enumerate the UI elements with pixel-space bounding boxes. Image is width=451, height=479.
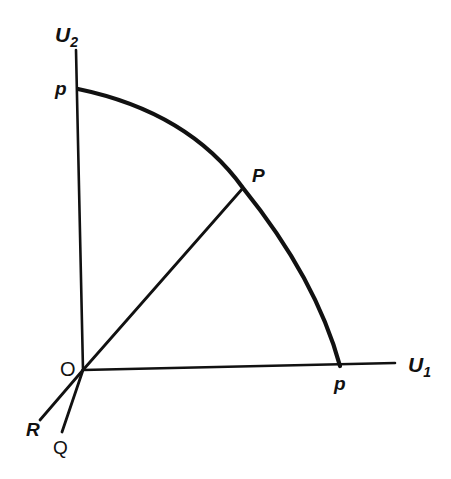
u2-axis [76,50,83,370]
ray-op [83,188,243,370]
u1-axis-label: U1 [408,353,431,380]
point-p-label: P [252,165,265,186]
ray-q-label: Q [53,437,68,458]
origin-label: O [60,358,76,380]
u2-axis-label: U2 [55,23,78,50]
utility-frontier-diagram: U2 U1 p p P O R Q [0,0,451,479]
frontier-intercept-vertical-label: p [54,78,67,99]
u1-axis [83,363,395,370]
ray-r-label: R [26,419,40,440]
frontier-intercept-horizontal-label: p [333,373,346,394]
